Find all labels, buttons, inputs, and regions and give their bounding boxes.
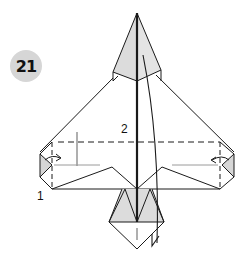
right-trailing-edge	[137, 167, 220, 189]
nose-shaded-face-right	[137, 13, 161, 81]
left-trailing-edge	[52, 167, 137, 189]
fold-label-1: 1	[37, 189, 44, 203]
right-wing-edge	[156, 75, 234, 152]
fold-label-2: 2	[121, 122, 128, 136]
left-wing-edge	[40, 78, 113, 152]
fold-arrow-head	[152, 234, 159, 246]
nose-shaded-face	[113, 13, 137, 81]
